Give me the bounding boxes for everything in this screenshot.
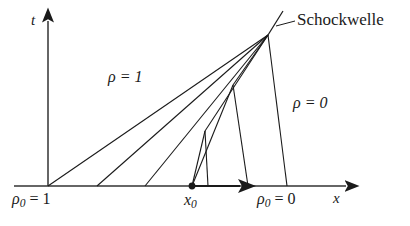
rho-equals-one-label: ρ = 1 — [108, 69, 142, 85]
x0-point-marker — [189, 183, 196, 190]
shock-callout-leader — [276, 21, 295, 26]
fan-ray-3 — [205, 131, 208, 186]
fan-ray-5 — [233, 35, 268, 85]
rho0-right-symbol: ρ — [257, 190, 265, 207]
rho0-left-value: = 1 — [25, 190, 50, 207]
rho0-equals-zero-label: ρ0 = 0 — [257, 191, 295, 210]
x0-label: x0 — [184, 192, 197, 211]
diagram-canvas — [0, 0, 410, 226]
x-axis-label: x — [333, 191, 340, 206]
fan-ray-7 — [268, 35, 287, 186]
characteristic-line-2 — [97, 35, 268, 186]
t-axis-label: t — [31, 13, 35, 28]
shock-wave-line — [268, 11, 283, 35]
rho0-left-symbol: ρ — [12, 190, 20, 207]
fan-ray-4 — [192, 85, 233, 186]
x0-subscript: 0 — [191, 198, 197, 210]
characteristic-line-1 — [48, 35, 268, 186]
characteristics-diagram: t x ρ = 1 ρ = 0 ρ0 = 1 ρ0 = 0 x0 Schockw… — [0, 0, 410, 226]
fan-ray-6 — [233, 85, 248, 186]
rho0-right-value: = 0 — [270, 190, 295, 207]
shock-wave-label: Schockwelle — [297, 11, 384, 28]
characteristic-lines-left — [48, 35, 268, 186]
rho0-equals-one-label: ρ0 = 1 — [12, 191, 50, 210]
rho-equals-zero-label: ρ = 0 — [293, 95, 327, 111]
